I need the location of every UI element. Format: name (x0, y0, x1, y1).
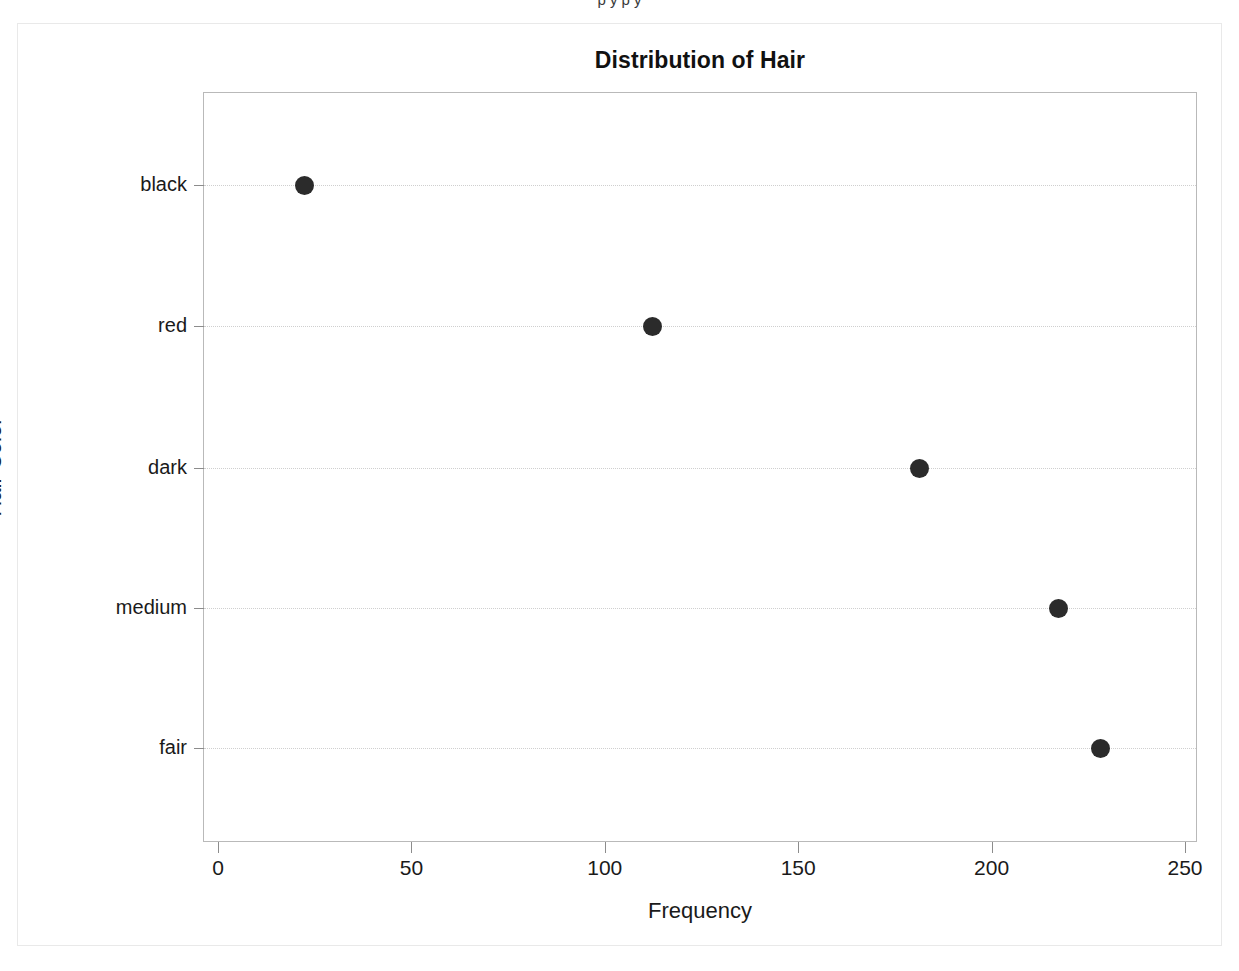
gridline-black (204, 185, 1196, 186)
x-axis-label-200: 200 (932, 856, 1052, 880)
y-axis-tick-fair (194, 748, 204, 749)
x-axis-tick-50 (411, 842, 412, 853)
data-point-fair[interactable] (1091, 739, 1110, 758)
x-axis-label-100: 100 (545, 856, 665, 880)
plot-area (203, 92, 1197, 842)
x-axis-label-0: 0 (158, 856, 278, 880)
x-axis-label-150: 150 (738, 856, 858, 880)
data-point-medium[interactable] (1049, 599, 1068, 618)
gridline-medium (204, 608, 1196, 609)
x-axis-tick-100 (605, 842, 606, 853)
data-point-red[interactable] (643, 317, 662, 336)
gridline-fair (204, 748, 1196, 749)
y-axis-tick-black (194, 185, 204, 186)
y-axis-tick-red (194, 326, 204, 327)
y-axis-label-black: black (27, 173, 187, 196)
x-axis-title: Frequency (203, 898, 1197, 924)
x-axis-tick-200 (992, 842, 993, 853)
data-point-black[interactable] (295, 176, 314, 195)
clipped-header-text: p y p y (0, 0, 1239, 11)
gridline-dark (204, 468, 1196, 469)
y-axis-tick-medium (194, 608, 204, 609)
x-axis-label-250: 250 (1125, 856, 1239, 880)
y-axis-label-fair: fair (27, 736, 187, 759)
y-axis-label-medium: medium (27, 596, 187, 619)
x-axis-tick-0 (218, 842, 219, 853)
x-axis-tick-150 (798, 842, 799, 853)
gridline-red (204, 326, 1196, 327)
x-axis-label-50: 50 (351, 856, 471, 880)
data-point-dark[interactable] (910, 459, 929, 478)
y-axis-title: Hair Color (0, 417, 7, 516)
plot-canvas (204, 93, 1196, 841)
y-axis-label-red: red (27, 314, 187, 337)
chart-title: Distribution of Hair (203, 47, 1197, 74)
y-axis-label-dark: dark (27, 456, 187, 479)
y-axis-tick-dark (194, 468, 204, 469)
x-axis-tick-250 (1185, 842, 1186, 853)
